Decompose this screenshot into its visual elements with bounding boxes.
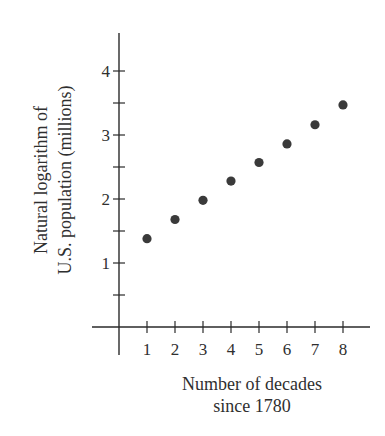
x-tick-label: 7 bbox=[311, 340, 320, 359]
data-point bbox=[142, 234, 151, 243]
y-tick-label: 1 bbox=[102, 254, 111, 273]
y-axis-label-line: U.S. population (millions) bbox=[55, 85, 76, 274]
data-point bbox=[310, 120, 319, 129]
data-point bbox=[198, 196, 207, 205]
y-tick-label: 2 bbox=[102, 190, 111, 209]
y-tick-label: 3 bbox=[102, 126, 111, 145]
ticks: 123456781234 bbox=[102, 62, 348, 359]
x-tick-label: 3 bbox=[199, 340, 208, 359]
data-point bbox=[282, 139, 291, 148]
y-axis-label-line: Natural logarithm of bbox=[31, 106, 51, 254]
data-points bbox=[142, 100, 347, 243]
x-tick-label: 4 bbox=[227, 340, 236, 359]
data-point bbox=[170, 215, 179, 224]
data-point bbox=[338, 100, 347, 109]
x-tick-label: 6 bbox=[283, 340, 292, 359]
x-tick-label: 2 bbox=[171, 340, 180, 359]
axes bbox=[92, 33, 370, 355]
y-tick-label: 4 bbox=[102, 62, 111, 81]
x-tick-label: 8 bbox=[339, 340, 348, 359]
x-axis-label: since 1780 bbox=[213, 396, 290, 416]
y-axis-label: Natural logarithm ofU.S. population (mil… bbox=[31, 85, 76, 274]
x-tick-label: 5 bbox=[255, 340, 264, 359]
axis-labels: Number of decadessince 1780Natural logar… bbox=[31, 85, 322, 416]
x-axis-label: Number of decades bbox=[182, 374, 322, 394]
scatter-chart: 123456781234 Number of decadessince 1780… bbox=[0, 0, 385, 436]
x-tick-label: 1 bbox=[143, 340, 152, 359]
data-point bbox=[226, 176, 235, 185]
data-point bbox=[254, 158, 263, 167]
